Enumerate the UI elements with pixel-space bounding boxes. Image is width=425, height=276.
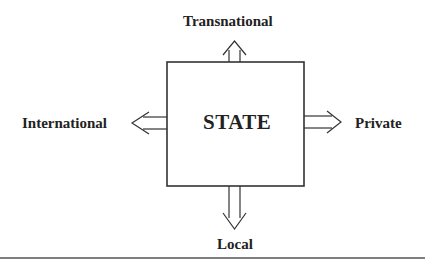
arrow-down-icon (223, 186, 246, 229)
diagram-graphics (0, 0, 425, 276)
label-international: International (22, 116, 107, 131)
state-diagram: STATE Transnational International Privat… (0, 0, 425, 276)
label-private: Private (355, 116, 402, 131)
arrow-left-icon (132, 112, 167, 134)
arrow-up-icon (223, 41, 246, 62)
center-label: STATE (203, 112, 271, 133)
arrow-right-icon (304, 111, 341, 133)
label-transnational: Transnational (183, 14, 273, 29)
label-local: Local (217, 237, 253, 252)
